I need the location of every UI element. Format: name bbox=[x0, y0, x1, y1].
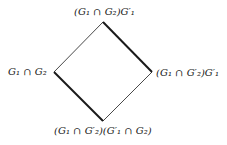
edge-left-bottom bbox=[54, 72, 103, 121]
node-label-left: G₁ ∩ G₂ bbox=[8, 67, 47, 77]
edge-top-left bbox=[54, 22, 103, 72]
edge-top-right bbox=[103, 22, 152, 72]
node-label-bottom: (G₁ ∩ G′₂)(G′₁ ∩ G₂) bbox=[54, 126, 152, 136]
node-label-right: (G₁ ∩ G′₂)G′₁ bbox=[156, 68, 219, 78]
lattice-diagram: (G₁ ∩ G₂)G′₁ G₁ ∩ G₂ (G₁ ∩ G′₂)G′₁ (G₁ ∩… bbox=[0, 0, 227, 145]
edge-right-bottom bbox=[103, 72, 152, 121]
node-label-top: (G₁ ∩ G₂)G′₁ bbox=[74, 7, 135, 17]
